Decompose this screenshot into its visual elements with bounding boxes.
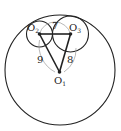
length-o2-o3: 7 [52,20,58,31]
length-o2-o1: 9 [37,54,43,65]
edge-o2-o1 [40,34,60,72]
length-o3-o1: 8 [67,54,73,65]
label-o3: O3 [69,22,81,34]
geometry-diagram: O2 O3 O1 7 9 8 [0,0,121,131]
label-o1: O1 [54,75,66,87]
label-o2: O2 [27,22,39,34]
point-o1 [58,70,62,74]
edge-o3-o1 [60,34,71,72]
